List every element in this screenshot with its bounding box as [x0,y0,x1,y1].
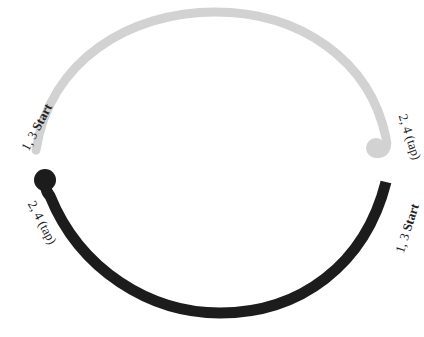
arc-diagram [0,0,424,337]
bottom-arc-end-dot [34,169,56,191]
top-arc-end-dot [366,138,386,158]
top-arc [36,12,387,154]
bottom-arc [46,176,386,313]
